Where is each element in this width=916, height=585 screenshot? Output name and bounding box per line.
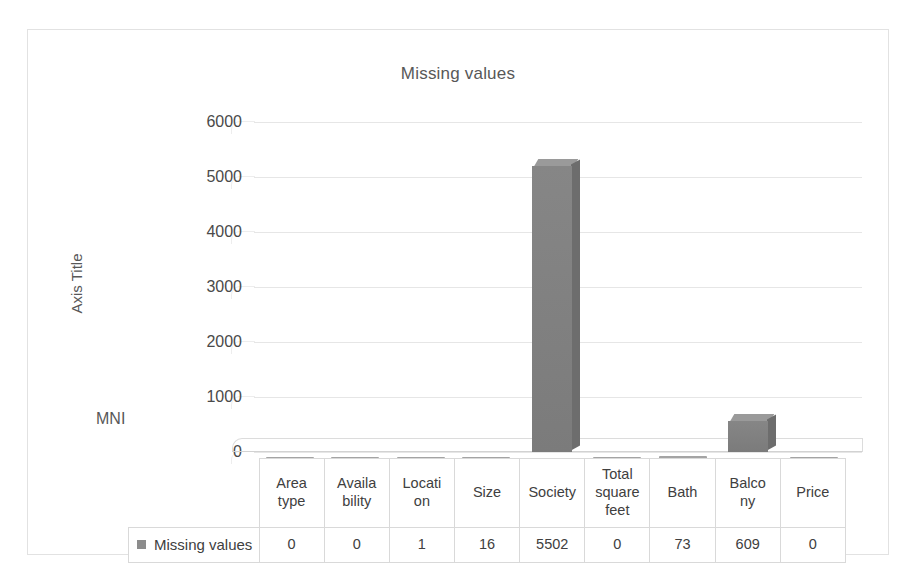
chart-frame: Missing values Axis Title MNI 6000 5000 … (27, 29, 889, 555)
cell-balcony: 609 (715, 528, 780, 563)
mni-label: MNI (96, 410, 125, 428)
cell-society: 5502 (520, 528, 585, 563)
bar-3d-column (728, 421, 768, 452)
cell-size: 16 (454, 528, 519, 563)
y-tick-4000: 4000 (206, 223, 242, 241)
column-header-size: Size (454, 459, 519, 528)
y-tick-2000: 2000 (206, 333, 242, 351)
column-header-balcony: Balco ny (715, 459, 780, 528)
table-value-row: Missing values 0 0 1 16 5502 0 73 609 0 (129, 528, 846, 563)
legend-label: Missing values (154, 536, 252, 555)
cell-area-type: 0 (259, 528, 324, 563)
column-header-availability: Availa bility (324, 459, 389, 528)
data-table: Area type Availa bility Locati on Size S… (128, 458, 846, 563)
column-header-bath: Bath (650, 459, 715, 528)
cell-price: 0 (780, 528, 845, 563)
column-header-price: Price (780, 459, 845, 528)
y-tick-1000: 1000 (206, 388, 242, 406)
cell-bath: 73 (650, 528, 715, 563)
bar-3d-column (532, 166, 572, 452)
column-header-area-type: Area type (259, 459, 324, 528)
table-header-row: Area type Availa bility Locati on Size S… (129, 459, 846, 528)
y-tick-3000: 3000 (206, 278, 242, 296)
column-header-society: Society (520, 459, 585, 528)
plot-area: 6000 5000 4000 3000 2000 1000 0 (232, 122, 862, 452)
chart-title: Missing values (28, 64, 888, 84)
legend-swatch-icon (137, 540, 146, 549)
gridline-6000: 6000 (254, 122, 862, 123)
y-axis-title: Axis Title (68, 214, 85, 354)
cell-availability: 0 (324, 528, 389, 563)
legend-entry: Missing values (129, 528, 260, 563)
table-corner-cell (129, 459, 260, 528)
cell-location: 1 (389, 528, 454, 563)
y-tick-6000: 6000 (206, 113, 242, 131)
y-tick-5000: 5000 (206, 168, 242, 186)
column-header-total-square-feet: Total square feet (585, 459, 650, 528)
column-header-location: Locati on (389, 459, 454, 528)
cell-total-square-feet: 0 (585, 528, 650, 563)
